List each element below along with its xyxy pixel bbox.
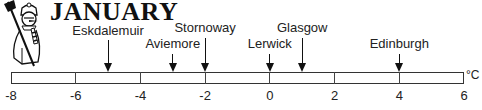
arrow-shaft: [302, 38, 303, 64]
tick-label: -4: [135, 88, 147, 103]
snowman-illustration-icon: [0, 0, 52, 68]
station-label: Aviemore: [145, 36, 200, 51]
station-label: Glasgow: [277, 20, 328, 35]
arrow-shaft: [205, 38, 206, 64]
tick-mark: [75, 72, 76, 84]
station-label: Eskdalemuir: [72, 23, 144, 38]
tick-mark: [399, 72, 400, 84]
tick-mark: [205, 72, 206, 84]
tick-mark: [269, 72, 270, 84]
station-label: Edinburgh: [370, 36, 429, 51]
tick-label: -2: [199, 88, 211, 103]
unit-label: °C: [466, 68, 479, 82]
tick-label: -8: [5, 88, 17, 103]
tick-mark: [334, 72, 335, 84]
station-label: Stornoway: [174, 20, 235, 35]
arrow-down-icon: [298, 63, 306, 72]
tick-label: 4: [396, 88, 403, 103]
tick-label: 2: [331, 88, 338, 103]
arrow-down-icon: [104, 63, 112, 72]
tick-label: -6: [70, 88, 82, 103]
temperature-scale-bar: [11, 72, 464, 84]
arrow-down-icon: [395, 63, 403, 72]
arrow-down-icon: [201, 63, 209, 72]
arrow-shaft: [108, 40, 109, 64]
arrow-down-icon: [169, 63, 177, 72]
tick-label: 0: [266, 88, 273, 103]
arrow-down-icon: [266, 63, 274, 72]
station-label: Lerwick: [248, 36, 292, 51]
tick-label: 6: [460, 88, 467, 103]
tick-mark: [140, 72, 141, 84]
